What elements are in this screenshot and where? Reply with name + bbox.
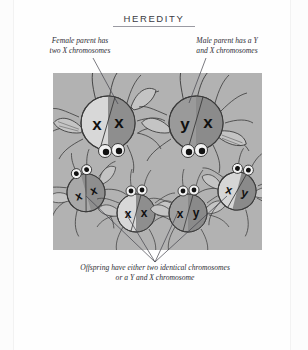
chromosome-label: x — [125, 207, 132, 221]
page-title: HEREDITY — [0, 13, 308, 24]
chromosome-label: x — [203, 113, 213, 132]
title-underline — [113, 26, 195, 27]
chromosome-label: x — [177, 207, 184, 221]
fly-offspring-1: x x — [53, 142, 135, 244]
chromosome-label: x — [92, 115, 102, 134]
fly-male-parent: y x — [138, 73, 253, 173]
caption-male-parent: Male parent has a Y and X chromosomes — [168, 36, 286, 56]
chromosome-label: x — [114, 113, 124, 132]
page-root: HEREDITY Female parent has two X chromos… — [0, 0, 308, 350]
flies-illustration: x x — [53, 73, 262, 250]
caption-female-parent: Female parent has two X chromosomes — [24, 36, 136, 56]
caption-offspring: Offspring have either two identical chro… — [24, 263, 286, 283]
chromosome-label: x — [141, 206, 148, 220]
chromosome-label: y — [193, 206, 200, 220]
chromosome-label: y — [180, 115, 190, 134]
illustration-panel: x x — [53, 73, 262, 250]
